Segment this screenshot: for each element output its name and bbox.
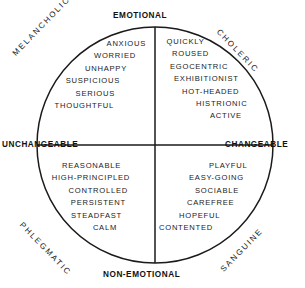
- trait-list-choleric: QUICKLY ROUSED EGOCENTRIC EXHIBITIONIST …: [160, 36, 292, 123]
- trait-item: REASONABLE: [62, 160, 121, 172]
- trait-item-wrapped: QUICKLY ROUSED: [162, 36, 209, 61]
- trait-item: HOPEFUL: [179, 210, 220, 222]
- trait-item: CAREFREE: [187, 197, 234, 209]
- trait-item: QUICKLY: [166, 36, 204, 48]
- trait-item: CALM: [93, 222, 117, 234]
- trait-item: CONTENTED: [159, 222, 213, 234]
- trait-item: UNHAPPY: [85, 63, 127, 75]
- trait-item: WORRIED: [94, 50, 136, 62]
- trait-item: CONTROLLED: [69, 185, 128, 197]
- trait-item: SERIOUS: [76, 88, 115, 100]
- axis-label-unchangeable: UNCHANGEABLE: [2, 140, 78, 149]
- trait-item: HISTRIONIC: [196, 98, 247, 110]
- trait-list-phlegmatic: REASONABLE HIGH-PRINCIPLED CONTROLLED PE…: [20, 160, 148, 234]
- trait-list-sanguine: PLAYFUL EASY-GOING SOCIABLE CAREFREE HOP…: [157, 160, 289, 234]
- trait-item: ROUSED: [172, 48, 209, 60]
- trait-item: EASY-GOING: [189, 172, 244, 184]
- trait-item: EXHIBITIONIST: [174, 73, 239, 85]
- trait-item: ANXIOUS: [107, 38, 146, 50]
- trait-item: PLAYFUL: [209, 160, 247, 172]
- trait-item: HIGH-PRINCIPLED: [52, 172, 130, 184]
- axis-label-changeable: CHANGEABLE: [225, 140, 288, 149]
- trait-item: SOCIABLE: [195, 185, 239, 197]
- trait-list-melancholic: ANXIOUS WORRIED UNHAPPY SUSPICIOUS SERIO…: [20, 38, 148, 112]
- trait-item: SUSPICIOUS: [66, 75, 120, 87]
- trait-item: HOT-HEADED: [182, 86, 239, 98]
- trait-item: EGOCENTRIC: [170, 61, 228, 73]
- axis-label-non-emotional: NON-EMOTIONAL: [103, 270, 180, 279]
- eysenck-personality-diagram: EMOTIONAL NON-EMOTIONAL UNCHANGEABLE CHA…: [0, 0, 305, 288]
- trait-item: PERSISTENT: [71, 197, 126, 209]
- trait-item: ACTIVE: [210, 110, 242, 122]
- trait-item: THOUGHTFUL: [55, 100, 114, 112]
- axis-label-emotional: EMOTIONAL: [113, 11, 167, 20]
- trait-item: STEADFAST: [71, 210, 122, 222]
